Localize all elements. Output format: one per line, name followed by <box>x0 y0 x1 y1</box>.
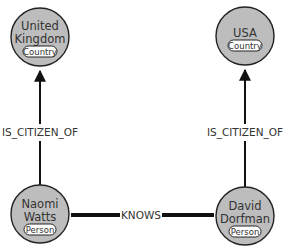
edge-label-is-citizen-of: IS_CITIZEN_OF <box>2 126 78 139</box>
node-usa[interactable]: USA Country <box>216 7 274 65</box>
node-name-line1: Naomi <box>21 197 58 211</box>
node-label-person: Person <box>231 227 260 237</box>
node-name-line2: Kingdom <box>15 32 66 46</box>
node-label-country: Country <box>23 47 57 57</box>
edge-label-knows: KNOWS <box>121 209 161 221</box>
node-name-line1: USA <box>233 26 257 40</box>
node-naomi-watts[interactable]: Naomi Watts Person <box>11 185 69 243</box>
node-name-line2: Dorfman <box>220 212 270 226</box>
node-label-person: Person <box>26 225 55 235</box>
node-david-dorfman[interactable]: David Dorfman Person <box>216 187 274 245</box>
edge-label-is-citizen-of: IS_CITIZEN_OF <box>207 126 283 139</box>
node-name-line1: David <box>228 199 261 213</box>
edge-naomi-is-citizen-of-uk[interactable]: IS_CITIZEN_OF <box>2 71 78 185</box>
edge-naomi-knows-david[interactable]: KNOWS <box>71 209 214 221</box>
node-name-line1: United <box>21 19 59 33</box>
node-united-kingdom[interactable]: United Kingdom Country <box>11 8 69 66</box>
edge-david-is-citizen-of-usa[interactable]: IS_CITIZEN_OF <box>207 70 283 187</box>
node-label-country: Country <box>228 41 262 51</box>
graph-canvas: IS_CITIZEN_OF IS_CITIZEN_OF KNOWS United… <box>0 0 284 252</box>
node-name-line2: Watts <box>24 210 57 224</box>
